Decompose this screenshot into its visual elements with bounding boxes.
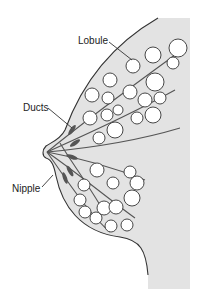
nipple-leader: [42, 175, 53, 187]
label-lobule: Lobule: [78, 35, 108, 46]
breast-anatomy-diagram: Lobule Ducts Nipple: [0, 0, 199, 289]
breast-tissue: [43, 18, 190, 289]
ducts-leader: [48, 108, 72, 128]
label-ducts: Ducts: [23, 102, 49, 113]
label-nipple: Nipple: [12, 183, 41, 194]
